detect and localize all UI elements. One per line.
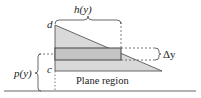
region-label: Plane region [76,75,130,86]
p-label: p(y) [13,67,32,80]
delta-y-label: Δy [163,48,176,60]
c-label: c [47,63,52,75]
p-brace [35,54,41,91]
horizontal-strip [55,48,121,60]
h-brace [55,16,121,24]
d-label: d [47,18,53,30]
h-label: h(y) [74,3,92,16]
delta-y-brace [155,48,161,60]
plane-region-diagram: h(y) d c Δy p(y) Plane region [0,0,201,98]
